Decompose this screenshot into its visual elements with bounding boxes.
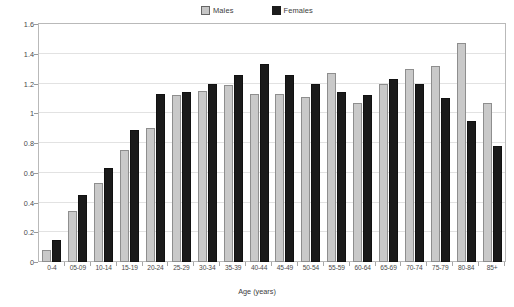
bar-males-80-84 (457, 43, 466, 262)
chart-figure: Males Females Estimated prevalence of di… (0, 0, 514, 307)
bar-group (453, 24, 479, 262)
x-axis-tick-label: 40-44 (246, 264, 272, 278)
legend-label-males: Males (213, 6, 234, 15)
bar-group (194, 24, 220, 262)
square-swatch-icon (201, 6, 210, 15)
x-axis-tick-label: 80-84 (453, 264, 479, 278)
bar-females-65-69 (389, 79, 398, 262)
legend-entry-males: Males (201, 6, 234, 15)
bar-group (65, 24, 91, 262)
x-axis-tick-label: 85+ (479, 264, 505, 278)
bar-females-70-74 (415, 84, 424, 263)
legend-entry-females: Females (272, 6, 313, 15)
y-axis-ticks: 00.20.40.60.811.21.41.6 (0, 0, 38, 307)
bar-males-45-49 (275, 94, 284, 262)
chart-legend: Males Females (0, 2, 514, 18)
bar-males-15-19 (120, 150, 129, 262)
bar-group (91, 24, 117, 262)
bar-males-30-34 (198, 91, 207, 262)
bar-males-55-59 (327, 73, 336, 262)
bar-females-15-19 (130, 130, 139, 262)
x-axis-tick-label: 15-19 (117, 264, 143, 278)
bar-females-80-84 (467, 121, 476, 262)
bar-group (220, 24, 246, 262)
bar-groups (39, 24, 505, 262)
y-axis-tick-label: 1.2 (24, 79, 34, 88)
bar-group (324, 24, 350, 262)
bar-females-85+ (493, 146, 502, 262)
bar-females-35-39 (234, 75, 243, 262)
x-axis-tick-label: 55-59 (324, 264, 350, 278)
x-axis-tick-label: 05-09 (65, 264, 91, 278)
bar-group (246, 24, 272, 262)
bar-males-35-39 (224, 85, 233, 262)
x-axis-tick-label: 60-64 (350, 264, 376, 278)
x-axis-tick-label: 35-39 (220, 264, 246, 278)
y-axis-tick-label: 0.2 (24, 228, 34, 237)
bar-females-55-59 (337, 92, 346, 262)
bar-males-05-09 (68, 211, 77, 262)
bar-females-75-79 (441, 98, 450, 262)
y-axis-tick-label: 0.8 (24, 139, 34, 148)
bar-group (401, 24, 427, 262)
x-axis-tick-label: 65-69 (376, 264, 402, 278)
x-axis-tick-label: 50-54 (298, 264, 324, 278)
bar-females-30-34 (208, 84, 217, 263)
bar-females-10-14 (104, 168, 113, 262)
x-axis-ticks: 0-405-0910-1415-1920-2425-2930-3435-3940… (39, 264, 505, 278)
x-axis-tick-label: 75-79 (427, 264, 453, 278)
legend-label-females: Females (284, 6, 313, 15)
x-axis-title: Age (years) (0, 287, 514, 296)
bar-group (298, 24, 324, 262)
y-axis-tick-label: 0.4 (24, 198, 34, 207)
bar-males-20-24 (146, 128, 155, 262)
bar-females-40-44 (260, 64, 269, 262)
bar-group (168, 24, 194, 262)
bar-females-45-49 (285, 75, 294, 262)
y-axis-tickmark (34, 262, 38, 263)
x-axis-tick-label: 25-29 (168, 264, 194, 278)
x-axis-tick-label: 10-14 (91, 264, 117, 278)
x-axis-tick-label: 30-34 (194, 264, 220, 278)
bar-females-25-29 (182, 92, 191, 262)
bar-males-10-14 (94, 183, 103, 262)
bar-males-0-4 (42, 250, 51, 262)
bar-group (376, 24, 402, 262)
bar-group (350, 24, 376, 262)
bar-group (117, 24, 143, 262)
x-axis-tick-label: 45-49 (272, 264, 298, 278)
x-axis-tick-label: 70-74 (401, 264, 427, 278)
y-axis-tick-label: 1.6 (24, 20, 34, 29)
bar-males-50-54 (301, 97, 310, 262)
bar-group (143, 24, 169, 262)
bar-females-50-54 (311, 84, 320, 263)
bar-females-05-09 (78, 195, 87, 262)
bar-males-75-79 (431, 66, 440, 262)
bar-males-65-69 (379, 84, 388, 263)
bar-females-60-64 (363, 95, 372, 262)
x-axis-tick-label: 0-4 (39, 264, 65, 278)
y-axis-tick-label: 0.6 (24, 168, 34, 177)
bar-group (479, 24, 505, 262)
bar-males-40-44 (250, 94, 259, 262)
bar-males-25-29 (172, 95, 181, 262)
y-axis-tick-label: 1.4 (24, 49, 34, 58)
bar-males-85+ (483, 103, 492, 262)
x-axis-tick-label: 20-24 (143, 264, 169, 278)
bar-group (39, 24, 65, 262)
square-swatch-icon (272, 6, 281, 15)
bar-males-60-64 (353, 103, 362, 262)
bar-females-20-24 (156, 94, 165, 262)
bar-males-70-74 (405, 69, 414, 262)
bar-females-0-4 (52, 240, 61, 262)
bar-group (272, 24, 298, 262)
bar-group (427, 24, 453, 262)
